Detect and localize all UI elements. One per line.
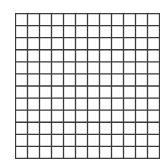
square-grid: [15, 13, 160, 159]
grid-lines: [15, 13, 160, 159]
